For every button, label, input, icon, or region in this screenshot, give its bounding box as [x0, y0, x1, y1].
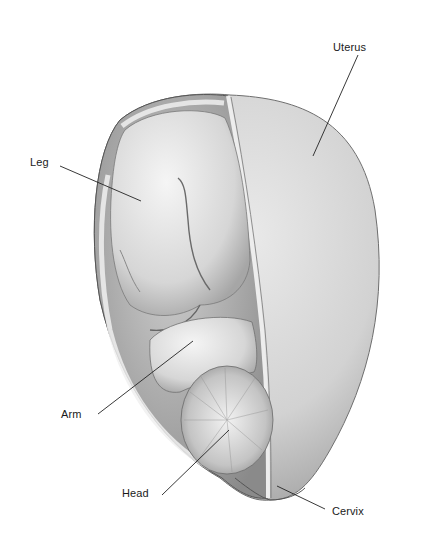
label-uterus: Uterus	[333, 41, 366, 53]
label-cervix: Cervix	[332, 505, 364, 517]
label-leg: Leg	[30, 156, 49, 168]
label-head: Head	[122, 487, 149, 499]
uterus-diagram: Uterus Leg Arm Head Cervix	[0, 0, 434, 548]
fetus-leg	[111, 111, 250, 316]
label-arm: Arm	[61, 408, 81, 420]
illustration	[0, 0, 434, 548]
